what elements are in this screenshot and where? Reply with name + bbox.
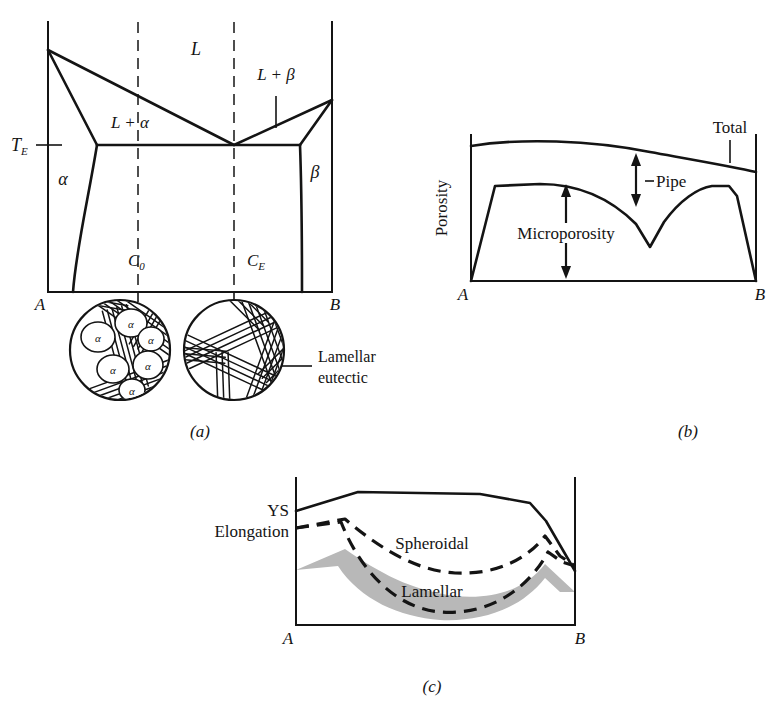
c0-label: C0 — [128, 251, 145, 272]
ce-label: CE — [247, 251, 265, 272]
region-label-l-plus-alpha: L + α — [110, 113, 150, 132]
lamellar-eutectic-label-line2: eutectic — [318, 369, 368, 386]
beta-solvus-line — [300, 145, 302, 292]
panel-c-ylabel-ys: YS — [267, 501, 289, 520]
panel-b-label-A: A — [457, 285, 469, 304]
eutectic-circle — [184, 300, 284, 400]
caption-b: (b) — [678, 422, 698, 441]
pipe-label: Pipe — [656, 172, 686, 191]
alpha-grain-label: α — [129, 385, 135, 397]
panel-b-axes — [471, 135, 756, 281]
alpha-grain-label: α — [148, 334, 154, 346]
alpha-grain-label: α — [128, 318, 134, 330]
pipe-arrow — [631, 153, 654, 207]
figure-root: TE L L + α L + β α β C0 CE A B — [0, 0, 782, 715]
microporosity-label-backdrop — [503, 223, 629, 243]
panel-a-label-A: A — [34, 295, 46, 314]
lamellar-label: Lamellar — [401, 582, 463, 601]
lamellar-eutectic-microstructure — [180, 284, 312, 411]
region-label-l-plus-beta: L + β — [256, 65, 295, 84]
panel-b-ylabel: Porosity — [432, 179, 451, 236]
alpha-solidus-line — [48, 50, 97, 145]
hypoeutectic-microstructure: α α α α α α — [70, 288, 183, 409]
caption-a: (a) — [190, 422, 210, 441]
panel-a-phase-diagram: TE L L + α L + β α β C0 CE A B — [0, 0, 420, 455]
microporosity-label: Microporosity — [517, 224, 615, 243]
microporosity-arrow — [561, 184, 571, 279]
lamellar-elongation-curve — [296, 522, 575, 612]
total-label: Total — [713, 118, 748, 137]
total-porosity-curve — [471, 141, 756, 172]
panel-b-label-B: B — [755, 285, 766, 304]
microporosity-curve — [471, 184, 756, 281]
panel-c-label-B: B — [575, 629, 586, 648]
alpha-solvus-line — [73, 145, 97, 292]
te-label: TE — [11, 135, 28, 157]
panel-c-label-A: A — [282, 629, 294, 648]
yield-strength-curve — [296, 492, 575, 571]
panel-a-label-B: B — [330, 295, 341, 314]
caption-c: (c) — [423, 677, 442, 696]
lamellar-band-shade — [296, 549, 575, 620]
region-label-liquid: L — [190, 39, 201, 59]
lamellar-eutectic-label-line1: Lamellar — [318, 348, 376, 365]
spheroidal-label: Spheroidal — [395, 534, 469, 553]
alpha-grain-label: α — [110, 364, 116, 376]
panel-c-axes — [296, 478, 575, 625]
alpha-grain-label: α — [95, 332, 101, 344]
panel-a-axes — [48, 22, 332, 292]
alpha-grain-label: α — [145, 360, 151, 372]
spheroidal-elongation-curve — [296, 519, 575, 573]
region-label-beta: β — [310, 162, 320, 182]
region-label-alpha: α — [58, 169, 68, 189]
panel-c-ylabel-elongation: Elongation — [214, 522, 289, 541]
